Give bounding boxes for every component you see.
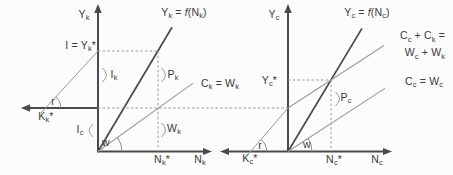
left-panel <box>21 4 288 155</box>
nc-star-label: Nc* <box>326 153 342 168</box>
pc-brace <box>336 92 340 106</box>
pk-brace <box>162 68 166 82</box>
right-production-fn-label: Yc = f(Nc) <box>344 7 390 22</box>
ik-label: Ik <box>111 69 118 84</box>
right-capital-axis-arrow-icon <box>220 148 229 155</box>
left-w-angle-arc <box>118 138 123 152</box>
investment-equals-output-label: I = Yk* <box>65 40 96 55</box>
left-production-fn-label: Yk = f(Nk) <box>161 7 207 22</box>
cc-equals-wc-label: Cc = Wc <box>405 76 443 91</box>
right-n-axis-label: Nc <box>371 153 383 168</box>
left-y-axis-arrow-icon <box>94 4 101 13</box>
left-w-angle-label: w <box>102 137 110 148</box>
yc-star-label: Yc* <box>262 75 277 90</box>
right-production-fn-line <box>288 28 362 151</box>
aggregate-consumption-label: Cc + Ck = Wc + Wk <box>400 29 445 63</box>
aggregate-consumption-label-line2: Wc + Wk <box>400 46 445 63</box>
kc-star-label: Kc* <box>242 152 257 167</box>
ic-brace <box>89 124 93 137</box>
left-capital-axis-arrow-icon <box>21 104 30 111</box>
left-production-fn-line <box>98 27 172 151</box>
pc-label: Pc <box>341 92 352 107</box>
ik-brace <box>103 68 107 82</box>
right-n-axis-arrow-icon <box>383 148 392 155</box>
left-r-angle-label: r <box>51 96 55 107</box>
right-profit-rate-line <box>248 108 288 155</box>
right-y-axis-arrow-icon <box>284 4 291 13</box>
wk-label: Wk <box>167 123 181 138</box>
right-panel <box>220 4 392 155</box>
nk-star-label: Nk* <box>154 154 170 169</box>
wk-brace <box>162 123 166 137</box>
kk-star-label: Kk* <box>38 111 53 126</box>
ic-label: Ic <box>77 124 84 139</box>
left-profit-rate-line <box>41 51 98 113</box>
aggregate-consumption-label-line1: Cc + Ck = <box>400 29 445 46</box>
ck-equals-wk-label: Ck = Wk <box>201 78 239 93</box>
left-n-axis-label: Nk <box>194 154 206 169</box>
left-consumption-line <box>98 83 193 151</box>
left-y-axis-label: Yk <box>79 9 90 24</box>
left-r-angle-arc <box>56 97 61 108</box>
right-r-angle-label: r <box>258 140 262 151</box>
pk-label: Pk <box>168 69 179 84</box>
right-y-axis-label: Yc <box>269 9 280 24</box>
two-sector-diagram: Yk Yk = f(Nk) I = Yk* Kk* r w Ik Ic Pk W… <box>0 0 453 175</box>
right-w-angle-label: w <box>303 139 311 150</box>
